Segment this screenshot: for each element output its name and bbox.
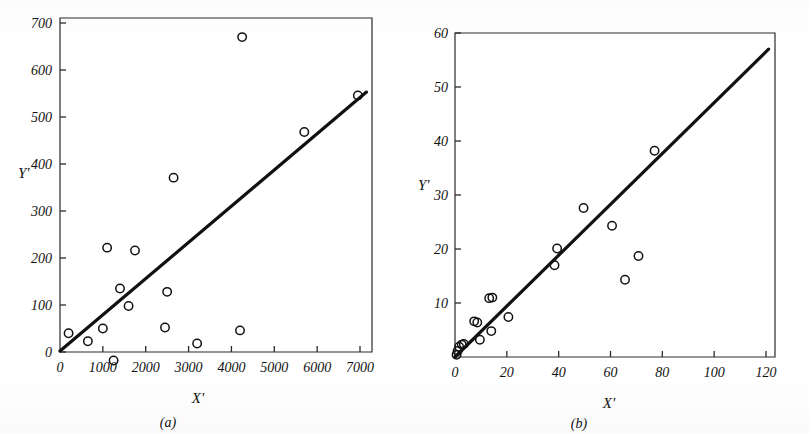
x-axis-title-b: X' <box>602 395 616 411</box>
x-tick-label: 5000 <box>260 360 288 375</box>
y-axis-ticks-a <box>60 23 66 352</box>
scatter-plot-b: 102030405060 020406080100120 Y' X' (b) <box>404 0 809 433</box>
x-tick-label: 0 <box>57 360 64 375</box>
data-point <box>238 33 246 41</box>
x-axis-ticks-a <box>103 346 360 352</box>
y-axis-title-a: Y' <box>18 165 30 181</box>
y-tick-label: 600 <box>31 63 52 78</box>
x-tick-label: 2000 <box>132 360 160 375</box>
x-tick-label: 4000 <box>217 360 245 375</box>
y-tick-label: 20 <box>434 242 448 257</box>
data-point <box>84 337 92 345</box>
x-tick-label: 80 <box>655 365 669 380</box>
panel-caption-b: (b) <box>571 416 588 432</box>
y-tick-label: 100 <box>31 298 52 313</box>
x-axis-tick-labels-b: 020406080100120 <box>452 365 777 380</box>
data-point <box>579 204 587 212</box>
regression-line-b <box>455 49 769 357</box>
plot-frame-a <box>60 18 372 352</box>
y-axis-tick-labels-b: 102030405060 <box>433 26 448 311</box>
y-tick-label: 300 <box>30 204 52 219</box>
x-tick-label: 20 <box>500 365 514 380</box>
y-tick-label: 60 <box>434 26 448 41</box>
data-point <box>236 326 244 334</box>
data-point <box>163 288 171 296</box>
x-tick-label: 1000 <box>89 360 117 375</box>
y-tick-label: 50 <box>434 80 448 95</box>
y-tick-label: 200 <box>31 251 52 266</box>
x-tick-label: 60 <box>604 365 618 380</box>
data-point <box>476 336 484 344</box>
data-point <box>193 339 201 347</box>
x-tick-label: 0 <box>452 365 459 380</box>
x-tick-label: 40 <box>552 365 566 380</box>
data-points-a <box>64 33 362 365</box>
scatter-plot-a: 0100200300400500600700 01000200030004000… <box>0 0 405 433</box>
y-axis-ticks-b <box>455 33 461 303</box>
regression-line-a <box>60 92 366 351</box>
data-point <box>487 327 495 335</box>
data-point <box>553 244 561 252</box>
data-point <box>124 302 132 310</box>
data-point <box>621 276 629 284</box>
y-axis-tick-labels-a: 0100200300400500600700 <box>30 16 52 360</box>
y-tick-label: 30 <box>433 188 448 203</box>
y-tick-label: 10 <box>434 296 448 311</box>
x-axis-ticks-b <box>507 351 766 357</box>
x-axis-tick-labels-a: 01000200030004000500060007000 <box>57 360 375 375</box>
x-tick-label: 7000 <box>346 360 374 375</box>
data-point <box>550 261 558 269</box>
x-tick-label: 6000 <box>303 360 331 375</box>
panel-caption-a: (a) <box>160 415 177 431</box>
data-point <box>161 323 169 331</box>
y-tick-label: 40 <box>434 134 448 149</box>
x-tick-label: 100 <box>704 365 725 380</box>
figure-page: 0100200300400500600700 01000200030004000… <box>0 0 809 433</box>
data-point <box>99 324 107 332</box>
data-point <box>608 222 616 230</box>
chart-panel-b: 102030405060 020406080100120 Y' X' (b) <box>404 0 809 433</box>
y-tick-label: 0 <box>45 345 52 360</box>
data-point <box>64 329 72 337</box>
y-tick-label: 400 <box>31 157 52 172</box>
x-tick-label: 120 <box>756 365 777 380</box>
x-tick-label: 3000 <box>174 360 203 375</box>
y-axis-title-b: Y' <box>418 177 430 193</box>
data-point <box>103 243 111 251</box>
data-point <box>634 252 642 260</box>
data-point <box>300 128 308 136</box>
data-point <box>131 246 139 254</box>
data-point <box>169 173 177 181</box>
chart-panel-a: 0100200300400500600700 01000200030004000… <box>0 0 405 433</box>
data-point <box>650 147 658 155</box>
data-point <box>116 284 124 292</box>
y-tick-label: 700 <box>31 16 52 31</box>
data-point <box>504 313 512 321</box>
y-tick-label: 500 <box>31 110 52 125</box>
x-axis-title-a: X' <box>191 390 205 406</box>
